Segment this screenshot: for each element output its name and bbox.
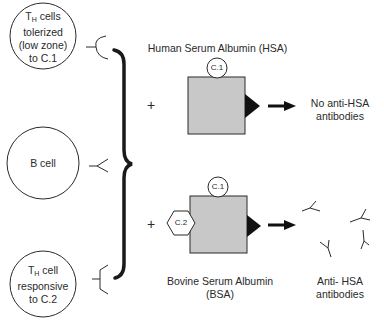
arrow-right-icon xyxy=(268,101,296,111)
antibody-icon xyxy=(302,201,320,211)
bsa-result-line1: Anti- HSA xyxy=(305,275,375,288)
th-line3: (low zone) xyxy=(10,39,76,52)
hsa-antigen-label: Human Serum Albumin (HSA) xyxy=(130,42,305,55)
antibody-icon xyxy=(361,230,369,249)
hsa-result-line2: antibodies xyxy=(300,110,380,123)
antibody-icon xyxy=(320,240,331,257)
hsa-result-label: No anti-HSA antibodies xyxy=(300,97,380,123)
bsa-c2-label: C.2 xyxy=(171,218,191,228)
th-line1-rest: cell xyxy=(39,264,58,276)
th-tolerized-label: TH cells tolerized (low zone) to C.1 xyxy=(10,10,76,65)
cup-receptor-icon xyxy=(86,36,108,59)
fork-receptor-icon xyxy=(92,265,108,294)
antibody-icon xyxy=(350,209,370,222)
antibody-icons xyxy=(302,201,370,257)
hsa-triangle-icon xyxy=(245,94,260,118)
th-responsive-label: TH cell responsive to C.2 xyxy=(10,264,76,306)
bsa-c1-label: C.1 xyxy=(208,182,228,192)
arrow-right-icon xyxy=(268,220,296,230)
th-line4: to C.1 xyxy=(10,52,76,65)
hsa-c1-label: C.1 xyxy=(207,63,227,73)
th-line3: to C.2 xyxy=(10,293,76,306)
hsa-result-line1: No anti-HSA xyxy=(300,97,380,110)
th-line2: responsive xyxy=(10,280,76,293)
y-receptor-icon xyxy=(89,159,108,172)
bsa-triangle-icon xyxy=(247,215,261,237)
bsa-carrier-box xyxy=(190,196,247,253)
plus-sign: + xyxy=(147,98,155,112)
bsa-label-line1: Bovine Serum Albumin xyxy=(160,275,280,288)
bsa-result-line2: antibodies xyxy=(305,288,375,301)
b-cell-label: B cell xyxy=(7,157,79,170)
bsa-label-line2: (BSA) xyxy=(160,288,280,301)
curly-brace-icon xyxy=(114,50,132,278)
plus-sign: + xyxy=(147,217,155,231)
hsa-carrier-box xyxy=(188,77,245,134)
bsa-result-label: Anti- HSA antibodies xyxy=(305,275,375,301)
bsa-antigen-label: Bovine Serum Albumin (BSA) xyxy=(160,275,280,301)
th-line2: tolerized xyxy=(10,26,76,39)
th-line1-rest: cells xyxy=(37,10,61,22)
